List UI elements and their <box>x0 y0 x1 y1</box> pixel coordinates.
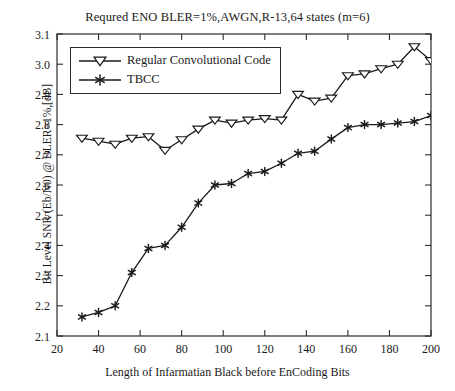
x-tick-label: 160 <box>339 342 357 356</box>
data-point-marker <box>428 112 435 120</box>
y-tick-label: 2.1 <box>35 330 50 344</box>
legend-label-regular-convolutional-code: Regular Convolutional Code <box>123 53 271 68</box>
legend-item-tbcc: TBCC <box>77 70 271 89</box>
data-point-marker <box>309 98 320 105</box>
x-tick-label: 60 <box>134 342 146 356</box>
legend-marker-asterisk-icon <box>77 71 123 89</box>
data-point-marker <box>112 302 119 310</box>
data-point-marker <box>160 147 171 154</box>
legend-label-tbcc: TBCC <box>123 72 160 87</box>
legend-marker-triangle-down-icon <box>77 52 123 70</box>
x-tick-label: 200 <box>422 342 440 356</box>
data-point-marker <box>278 159 285 167</box>
x-axis-label: Length of Infarmatian Black before EnCod… <box>0 365 455 380</box>
data-point-marker <box>328 135 335 143</box>
x-tick-label: 140 <box>297 342 315 356</box>
chart-legend: Regular Convolutional Code TBCC <box>70 47 281 94</box>
x-tick-label: 40 <box>93 342 105 356</box>
y-tick-label: 3.1 <box>35 28 50 42</box>
data-point-marker <box>110 141 121 148</box>
x-tick-label: 120 <box>256 342 274 356</box>
data-point-marker <box>342 73 353 80</box>
data-point-marker <box>126 135 137 142</box>
x-tick-label: 20 <box>51 342 63 356</box>
legend-item-regular-convolutional-code: Regular Convolutional Code <box>77 51 271 70</box>
x-tick-label: 180 <box>380 342 398 356</box>
series-line-1 <box>82 116 431 317</box>
x-tick-label: 100 <box>214 342 232 356</box>
data-point-marker <box>226 120 237 127</box>
data-point-marker <box>293 91 304 98</box>
data-point-marker <box>426 58 437 65</box>
data-point-marker <box>276 117 287 124</box>
x-tick-label: 80 <box>176 342 188 356</box>
y-axis-label: Bit Level SNR (Eb/N0) @ BLER=1%,[dB] <box>41 44 53 324</box>
chart-figure: Requred ENO BLER=1%,AWGN,R-13,64 states … <box>0 0 455 391</box>
